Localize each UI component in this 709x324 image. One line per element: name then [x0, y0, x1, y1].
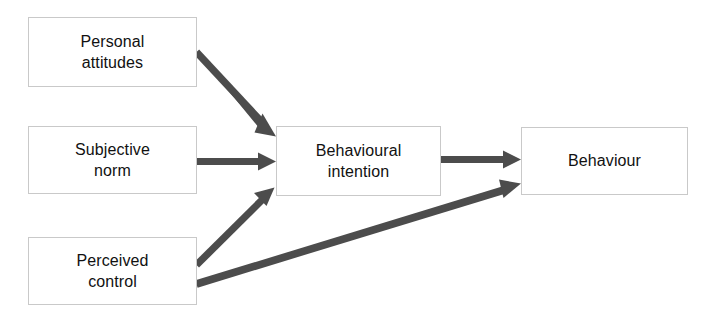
node-behaviour[interactable]: Behaviour	[521, 127, 688, 195]
node-personal-attitudes[interactable]: Personal attitudes	[28, 17, 197, 87]
node-perceived-control-label: Perceived control	[76, 250, 148, 292]
edge-intention-to-behaviour	[441, 151, 521, 169]
node-behaviour-label: Behaviour	[568, 150, 641, 171]
node-perceived-control[interactable]: Perceived control	[28, 237, 197, 305]
edge-attitudes-to-intention	[197, 52, 277, 137]
node-behavioural-intention-label: Behavioural intention	[316, 140, 402, 182]
node-personal-attitudes-label: Personal attitudes	[81, 31, 145, 73]
node-behavioural-intention[interactable]: Behavioural intention	[276, 126, 441, 196]
edge-norm-to-intention	[196, 153, 276, 171]
edge-control-to-intention	[197, 188, 275, 266]
node-subjective-norm-label: Subjective norm	[75, 139, 150, 181]
diagram-canvas: Personal attitudes Subjective norm Perce…	[0, 0, 709, 324]
node-subjective-norm[interactable]: Subjective norm	[28, 126, 197, 194]
